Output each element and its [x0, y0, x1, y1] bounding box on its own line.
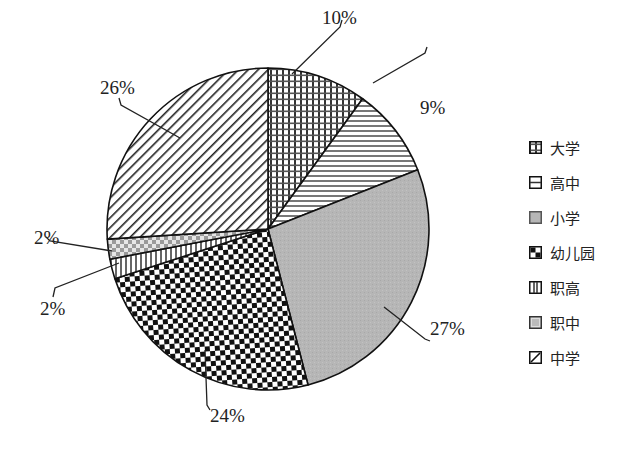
legend-item-zhizhong: 职中 — [529, 305, 595, 340]
swatch-gray-icon — [529, 211, 542, 224]
pct-label-zhizhong: 2% — [34, 227, 60, 248]
pie-slices — [107, 68, 429, 390]
legend-item-xiaoxue: 小学 — [529, 200, 595, 235]
leader-line-zhigao — [53, 263, 119, 297]
legend-label: 职中 — [550, 312, 580, 333]
legend-label: 大学 — [550, 137, 580, 158]
swatch-vertical-lines-icon — [529, 281, 542, 294]
swatch-light-checker-icon — [529, 316, 542, 329]
legend-item-youeryuan: 幼儿园 — [529, 235, 595, 270]
legend: 大学 高中 小学 幼儿园 职高 职中 中学 — [529, 130, 595, 375]
swatch-grid-icon — [529, 141, 542, 154]
legend-label: 小学 — [550, 207, 580, 228]
legend-item-zhigao: 职高 — [529, 270, 595, 305]
leader-line-daxue — [292, 20, 342, 74]
leader-line-gaozhong — [373, 47, 427, 83]
legend-label: 职高 — [550, 277, 580, 298]
swatch-checkerboard-icon — [529, 246, 542, 259]
legend-item-daxue: 大学 — [529, 130, 595, 165]
swatch-horizontal-lines-icon — [529, 176, 542, 189]
legend-label: 幼儿园 — [550, 242, 595, 263]
legend-item-gaozhong: 高中 — [529, 165, 595, 200]
legend-label: 高中 — [550, 172, 580, 193]
pct-label-youeryuan: 24% — [210, 405, 245, 426]
legend-item-zhongxue: 中学 — [529, 340, 595, 375]
pct-label-xiaoxue: 27% — [430, 318, 465, 339]
pct-label-gaozhong: 9% — [420, 97, 446, 118]
swatch-diagonal-lines-icon — [529, 351, 542, 364]
pct-label-zhongxue: 26% — [100, 77, 135, 98]
pct-label-daxue: 10% — [322, 7, 357, 28]
legend-label: 中学 — [550, 347, 580, 368]
pct-label-zhigao: 2% — [40, 298, 66, 319]
